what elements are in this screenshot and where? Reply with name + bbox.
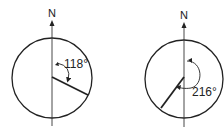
bearing-line xyxy=(161,77,184,108)
arc-start-arrow-icon xyxy=(55,62,59,66)
north-arrow-icon xyxy=(182,22,187,28)
bearing-diagram-118: N 118° xyxy=(12,7,92,126)
angle-label: 118° xyxy=(64,57,88,71)
arc-start-arrow-icon xyxy=(188,58,192,63)
bearing-diagrams: N 118° N 216° xyxy=(0,0,224,132)
north-label: N xyxy=(48,7,56,19)
angle-label: 216° xyxy=(192,85,217,99)
bearing-line xyxy=(52,77,88,95)
north-arrow-icon xyxy=(50,20,55,26)
north-label: N xyxy=(180,9,188,21)
bearing-diagram-216: N 216° xyxy=(145,9,223,127)
